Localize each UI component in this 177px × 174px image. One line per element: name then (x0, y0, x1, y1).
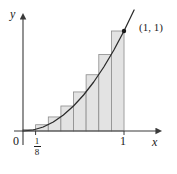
x-tick-label-one-eighth: 1 8 (30, 136, 44, 157)
point-marker-1-1 (122, 29, 126, 33)
riemann-bar (74, 92, 87, 131)
x-axis-label: x (152, 136, 157, 148)
fraction-denominator: 8 (30, 147, 44, 157)
y-axis-label: y (10, 8, 15, 20)
riemann-bar (61, 106, 74, 131)
fraction-numerator: 1 (30, 136, 44, 146)
x-tick-label-one: 1 (120, 135, 126, 147)
point-annotation-label: (1, 1) (139, 22, 163, 33)
riemann-bar (111, 31, 124, 131)
origin-label: 0 (13, 135, 19, 147)
riemann-rectangles (23, 31, 124, 131)
riemann-sum-figure: y x 0 1 (1, 1) 1 8 (0, 0, 177, 174)
